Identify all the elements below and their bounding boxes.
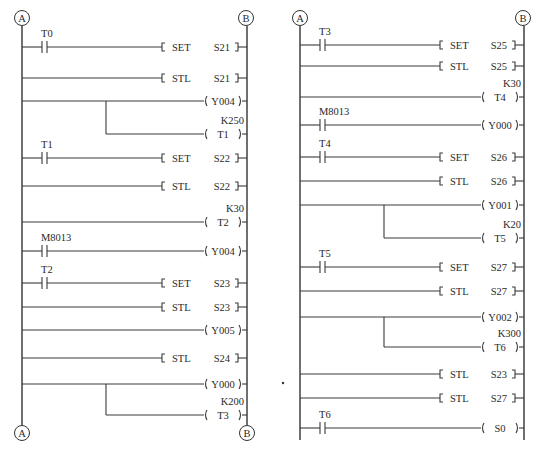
rung: T6S0 xyxy=(300,409,524,434)
rung: STLS27 xyxy=(300,286,524,297)
instruction-label: STL xyxy=(450,286,469,297)
rung: STLS23 xyxy=(300,369,524,380)
operand-label: S22 xyxy=(214,153,230,164)
operand-label: S27 xyxy=(491,262,507,273)
stl-instruction: STLS23 xyxy=(162,302,247,313)
rung: T3SETS25 xyxy=(300,26,524,51)
coil-t4: T4K30 xyxy=(483,78,525,103)
stl-instruction: STLS22 xyxy=(162,181,247,192)
no-contact-t1: T1 xyxy=(41,139,53,164)
set-instruction: SETS27 xyxy=(440,262,524,273)
connector-B-top: B xyxy=(516,11,531,26)
operand-label: S27 xyxy=(491,393,507,404)
instruction-label: STL xyxy=(172,353,191,364)
timer-preset-label: K20 xyxy=(503,219,521,230)
contact-label: T1 xyxy=(41,139,53,150)
rung: STLS25 xyxy=(300,61,524,72)
set-instruction: SETS22 xyxy=(162,153,247,164)
contact-label: T4 xyxy=(319,138,331,149)
stl-instruction: STLS24 xyxy=(162,353,247,364)
timer-preset-label: K200 xyxy=(221,396,244,407)
rung: Y001 xyxy=(300,200,524,239)
set-instruction: SETS21 xyxy=(162,42,247,53)
rung: Y002 xyxy=(300,312,524,348)
coil-label: T4 xyxy=(494,92,506,103)
rung: STLS23 xyxy=(22,302,247,313)
operand-label: S26 xyxy=(491,152,507,163)
operand-label: S21 xyxy=(214,42,230,53)
coil-y000: Y000 xyxy=(206,379,248,390)
rung: T4K30 xyxy=(300,78,524,103)
rung: STLS24 xyxy=(22,353,247,364)
no-contact-t4: T4 xyxy=(319,138,331,163)
stl-instruction: STLS27 xyxy=(440,286,524,297)
coil-label: T3 xyxy=(217,410,229,421)
ladder-left: T0SETS21STLS21Y004T1K250T1SETS22STLS22T2… xyxy=(22,26,247,425)
contact-label: T3 xyxy=(319,26,331,37)
stl-instruction: STLS21 xyxy=(162,73,247,84)
coil-label: Y005 xyxy=(211,325,234,336)
connector-label: A xyxy=(18,428,26,439)
operand-label: S23 xyxy=(214,302,230,313)
coil-y005: Y005 xyxy=(206,325,248,336)
no-contact-t6: T6 xyxy=(319,409,331,434)
set-instruction: SETS23 xyxy=(162,278,247,289)
coil-label: Y004 xyxy=(211,246,235,257)
contact-label: T2 xyxy=(41,264,53,275)
rung: Y004 xyxy=(22,96,247,135)
instruction-label: SET xyxy=(450,262,469,273)
stl-instruction: STLS25 xyxy=(440,61,524,72)
rung: M8013Y004 xyxy=(22,232,247,257)
no-contact-m8013: M8013 xyxy=(41,232,71,257)
instruction-label: STL xyxy=(172,181,191,192)
connector-A-bottom: A xyxy=(15,426,30,441)
contact-label: M8013 xyxy=(41,232,71,243)
connector-B-top: B xyxy=(239,11,254,26)
connector-A-top: A xyxy=(293,11,308,26)
no-contact-t3: T3 xyxy=(319,26,331,51)
coil-label: Y004 xyxy=(211,96,235,107)
connector-label: B xyxy=(242,13,249,24)
rung: Y005 xyxy=(22,325,247,336)
timer-preset-label: K250 xyxy=(221,115,244,126)
no-contact-t5: T5 xyxy=(319,248,331,273)
instruction-label: STL xyxy=(450,61,469,72)
operand-label: S25 xyxy=(491,61,507,72)
rung: M8013Y000 xyxy=(300,106,524,131)
operand-label: S25 xyxy=(491,40,507,51)
set-instruction: SETS26 xyxy=(440,152,524,163)
rung: STLS21 xyxy=(22,73,247,84)
operand-label: S26 xyxy=(491,176,507,187)
no-contact-t2: T2 xyxy=(41,264,53,289)
coil-label: Y002 xyxy=(488,312,511,323)
rung: T4SETS26 xyxy=(300,138,524,163)
coil-y000: Y000 xyxy=(483,120,525,131)
rung: T2K30 xyxy=(22,203,247,228)
instruction-label: STL xyxy=(172,73,191,84)
coil-t2: T2K30 xyxy=(206,203,248,228)
coil-y004: Y004 xyxy=(206,246,248,257)
no-contact-m8013: M8013 xyxy=(319,106,349,131)
instruction-label: SET xyxy=(172,153,191,164)
instruction-label: STL xyxy=(172,302,191,313)
rung: T6K300 xyxy=(384,328,524,353)
timer-preset-label: K30 xyxy=(226,203,244,214)
instruction-label: SET xyxy=(450,40,469,51)
stl-instruction: STLS26 xyxy=(440,176,524,187)
rung: T1SETS22 xyxy=(22,139,247,164)
contact-label: T5 xyxy=(319,248,331,259)
contact-label: T6 xyxy=(319,409,331,420)
stl-instruction: STLS23 xyxy=(440,369,524,380)
coil-label: Y001 xyxy=(488,200,511,211)
connector-label: A xyxy=(296,13,304,24)
timer-preset-label: K300 xyxy=(498,328,521,339)
rung: T5K20 xyxy=(384,219,524,244)
set-instruction: SETS25 xyxy=(440,40,524,51)
stray-dot xyxy=(282,382,284,384)
instruction-label: SET xyxy=(172,42,191,53)
rung: T0SETS21 xyxy=(22,28,247,53)
coil-t3: T3K200 xyxy=(206,396,248,421)
coil-t1: T1K250 xyxy=(206,115,248,140)
connector-label: A xyxy=(18,13,26,24)
rung: T2SETS23 xyxy=(22,264,247,289)
